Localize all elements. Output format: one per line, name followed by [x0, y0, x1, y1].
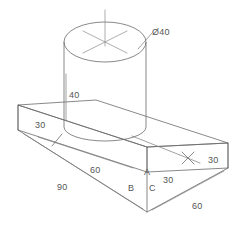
length-90-dimension-line: [24, 134, 143, 209]
dimension-label-plate-thickness-right: 30: [208, 155, 218, 165]
dimension-label-cyl-height: 40: [69, 90, 79, 100]
dimension-label-boss-offset-left: 60: [90, 165, 100, 175]
isometric-drawing-canvas: Ø40 40 30 60 90 30 30 60 A B C: [0, 0, 249, 234]
vertex-label-group: A B C: [128, 167, 156, 193]
vertex-label-a: A: [144, 167, 150, 177]
offset-60-dimension-line: [38, 137, 133, 168]
vertex-label-b: B: [128, 183, 134, 193]
plate-front-bottom-edges: [18, 130, 228, 212]
cylinder-bottom-arc: [64, 127, 146, 141]
vertex-label-c: C: [149, 183, 156, 193]
offset-30-dimension-line: [132, 136, 200, 163]
technical-drawing-container: Ø40 40 30 60 90 30 30 60 A B C: [0, 0, 249, 234]
centerline-group: [83, 10, 127, 53]
dimension-label-boss-offset-right: 30: [163, 175, 173, 185]
dimension-text-group: Ø40 40 30 60 90 30 30 60: [35, 27, 218, 211]
dimension-label-diameter: Ø40: [152, 27, 170, 37]
base-plate-group: [18, 100, 228, 212]
dimension-label-plate-thickness-left: 30: [35, 120, 45, 130]
dimension-label-plate-length: 90: [57, 182, 67, 192]
dimension-label-plate-width: 60: [192, 201, 202, 211]
